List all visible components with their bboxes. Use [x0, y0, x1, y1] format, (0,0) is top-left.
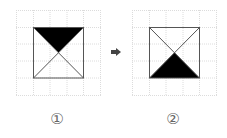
figure-1-label: ① — [50, 112, 63, 127]
figure-1 — [16, 10, 101, 96]
shaded-bottom-triangle — [150, 53, 200, 79]
right-arrow-icon — [111, 48, 121, 56]
figure-2-label: ② — [166, 112, 179, 127]
figure-2 — [132, 10, 217, 96]
shaded-top-triangle — [34, 28, 84, 53]
